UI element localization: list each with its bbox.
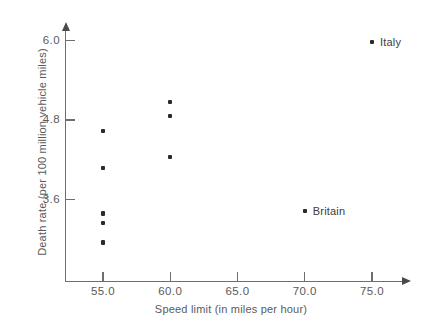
y-axis-line: [65, 30, 66, 282]
data-point-label: Italy: [380, 36, 401, 48]
x-axis-arrow-icon: [402, 277, 411, 285]
data-point-label: Britain: [313, 205, 346, 217]
x-tick-mark: [371, 272, 372, 281]
x-tick-label: 70.0: [282, 285, 328, 297]
data-point: [101, 221, 105, 225]
x-tick-label: 75.0: [349, 285, 395, 297]
x-tick-mark: [304, 272, 305, 281]
x-tick-mark: [102, 272, 103, 281]
scatter-plot-figure: 6.04.83.6 55.060.065.070.075.0 BritainIt…: [0, 0, 428, 332]
data-point: [101, 211, 105, 215]
x-tick-mark: [170, 272, 171, 281]
x-tick-label: 60.0: [147, 285, 193, 297]
x-tick-label: 55.0: [80, 285, 126, 297]
x-axis-line: [65, 281, 405, 282]
x-tick-label: 65.0: [215, 285, 261, 297]
data-point: [101, 240, 105, 244]
x-tick-mark: [237, 272, 238, 281]
data-point: [101, 166, 105, 170]
y-tick-mark: [66, 119, 75, 120]
data-point: [168, 114, 172, 118]
y-tick-mark: [66, 199, 75, 200]
data-point: [370, 40, 374, 44]
data-point: [101, 129, 105, 133]
y-axis-arrow-icon: [62, 22, 70, 31]
y-axis-title: Death rate (per 100 million vehicle mile…: [36, 27, 48, 277]
y-tick-mark: [66, 40, 75, 41]
data-point: [168, 100, 172, 104]
x-axis-title: Speed limit (in miles per hour): [66, 303, 396, 315]
data-point: [168, 155, 172, 159]
data-point: [303, 209, 307, 213]
